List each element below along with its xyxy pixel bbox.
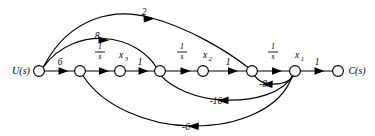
fraction-numerator-2: 1 bbox=[180, 42, 184, 51]
arrow-head-n4-to-x2 bbox=[181, 67, 191, 74]
gain-label-x1-to-n4: -16 bbox=[210, 96, 223, 106]
gain-label-n2-to-x3: 1 s bbox=[95, 42, 105, 62]
edge-n2-to-x3 bbox=[85, 67, 114, 74]
node-label-x3: x 3 bbox=[118, 50, 129, 61]
node-label-x2-base: x bbox=[202, 50, 208, 60]
arrow-head-x1-to-c bbox=[315, 67, 325, 74]
arrow-head-x3-to-n4 bbox=[139, 67, 149, 74]
node-c[interactable] bbox=[333, 66, 344, 77]
node-n2[interactable] bbox=[75, 66, 86, 77]
node-label-x1-sub: 1 bbox=[301, 55, 304, 62]
edge-x1-to-c bbox=[300, 67, 332, 74]
edge-path-x1-to-n4 bbox=[162, 76, 293, 100]
fraction-denominator-2: s bbox=[180, 52, 183, 61]
arrow-head-u-to-n2 bbox=[59, 67, 69, 74]
node-label-x2: x 2 bbox=[202, 50, 213, 61]
fraction-numerator-1: 1 bbox=[98, 42, 102, 51]
node-label-x2-sub: 2 bbox=[209, 55, 213, 62]
gain-label-x1-to-n2: -6 bbox=[182, 122, 190, 132]
gain-label-u-to-n6: 2 bbox=[142, 7, 147, 17]
signal-flow-graph-canvas: U(s) C(s) x 3 x 2 x 1 6 1 1 1 2 8 -16 -8… bbox=[0, 0, 375, 136]
node-u[interactable] bbox=[34, 66, 45, 77]
output-label: C(s) bbox=[348, 65, 366, 77]
edge-x1-to-n4 bbox=[162, 76, 293, 104]
edge-x2-to-n6 bbox=[208, 67, 246, 74]
gain-label-n6-to-x1: 1 s bbox=[268, 42, 278, 62]
gain-label-x2-to-n6: 1 bbox=[226, 57, 231, 67]
edge-x3-to-n4 bbox=[125, 67, 154, 74]
arrow-head-n2-to-x3 bbox=[99, 67, 109, 74]
gain-label-x1-to-n6: -8 bbox=[259, 79, 267, 89]
node-x3[interactable] bbox=[115, 66, 126, 77]
arrow-head-x2-to-n6 bbox=[228, 67, 238, 74]
gain-label-n4-to-x2: 1 s bbox=[177, 42, 187, 62]
node-n6[interactable] bbox=[247, 66, 258, 77]
node-label-x3-base: x bbox=[118, 50, 124, 60]
node-label-x1: x 1 bbox=[294, 50, 304, 61]
gain-label-x1-to-c: 1 bbox=[315, 57, 320, 67]
input-label: U(s) bbox=[12, 65, 30, 77]
edge-n4-to-x2 bbox=[165, 67, 197, 74]
gain-label-u-to-n4: 8 bbox=[95, 31, 100, 41]
fraction-denominator-3: s bbox=[271, 52, 274, 61]
edge-path-u-to-n6 bbox=[44, 14, 249, 67]
edge-n6-to-x1 bbox=[257, 67, 289, 74]
fraction-numerator-3: 1 bbox=[271, 42, 275, 51]
edge-u-to-n2 bbox=[44, 67, 74, 74]
gain-label-u-to-n2: 6 bbox=[58, 57, 63, 67]
arrow-head-n6-to-x1 bbox=[272, 67, 282, 74]
edge-u-to-n6 bbox=[44, 14, 249, 67]
node-label-x1-base: x bbox=[294, 50, 300, 60]
fraction-denominator-1: s bbox=[98, 52, 101, 61]
signal-flow-graph-figure: U(s) C(s) x 3 x 2 x 1 6 1 1 1 2 8 -16 -8… bbox=[0, 0, 375, 136]
node-n4[interactable] bbox=[155, 66, 166, 77]
gain-label-x3-to-n4: 1 bbox=[138, 57, 143, 67]
node-label-x3-sub: 3 bbox=[124, 55, 129, 62]
node-x1[interactable] bbox=[290, 66, 301, 77]
node-x2[interactable] bbox=[198, 66, 209, 77]
